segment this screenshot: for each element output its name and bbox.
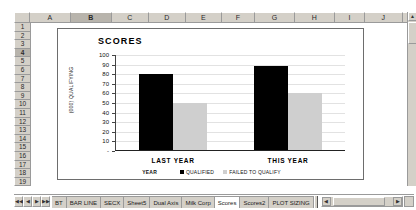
sheet-tab-bar: ◀◀ ◀ ▶ ▶▶ BT BAR LINE SECX Sheet5 Dual A… (14, 194, 414, 208)
legend-swatch-failed (223, 170, 227, 174)
row-header-2[interactable]: 2 (14, 32, 31, 41)
x-label-this-year: THIS YEAR (268, 157, 309, 164)
column-header-e[interactable]: E (186, 12, 222, 23)
bar-group-last-year (139, 55, 207, 150)
y-tick-40: 40 (102, 110, 109, 116)
scroll-left-icon[interactable]: ◀ (322, 197, 331, 206)
row-header-10[interactable]: 10 (14, 100, 31, 109)
embedded-chart[interactable]: SCORES (000) QUALIFYING 100 90 80 70 60 … (57, 28, 364, 180)
tab-nav-last-icon[interactable]: ▶▶ (41, 196, 50, 207)
tab-nav-buttons: ◀◀ ◀ ▶ ▶▶ (14, 196, 50, 207)
y-tick-70: 70 (102, 81, 109, 87)
sheet-tab-scores2[interactable]: Scores2 (240, 196, 269, 208)
spreadsheet-window: A B C D E F G H I J K 1 2 3 4 5 6 7 8 9 … (0, 0, 416, 210)
column-header-h[interactable]: H (295, 12, 335, 23)
select-all-corner[interactable] (14, 12, 30, 23)
legend-item-failed[interactable]: FAILED TO QUALIFY (223, 169, 281, 175)
column-header-g[interactable]: G (255, 12, 295, 23)
row-header-4[interactable]: 4 (14, 49, 31, 58)
legend-label-failed: FAILED TO QUALIFY (229, 169, 281, 175)
sheet-tab-secx[interactable]: SECX (101, 196, 124, 208)
row-header-11[interactable]: 11 (14, 109, 31, 118)
row-header-17[interactable]: 17 (14, 161, 31, 170)
vertical-scroll-thumb[interactable] (408, 22, 416, 44)
row-header-column: 1 2 3 4 5 6 7 8 9 10 11 12 13 14 15 16 1… (14, 23, 31, 186)
sheet-tabs: BT BAR LINE SECX Sheet5 Dual Axis Milk C… (52, 196, 314, 208)
sheet-tab-bt[interactable]: BT (52, 196, 67, 208)
scroll-right-icon[interactable]: ▶ (393, 197, 402, 206)
tab-nav-prev-icon[interactable]: ◀ (23, 196, 32, 207)
sheet-tab-sheet5[interactable]: Sheet5 (124, 196, 150, 208)
bar-qualified-this-year[interactable] (254, 66, 288, 150)
row-header-13[interactable]: 13 (14, 126, 31, 135)
column-header-d[interactable]: D (149, 12, 186, 23)
bars-plot (115, 55, 345, 151)
sheet-tab-bar-line[interactable]: BAR LINE (67, 196, 101, 208)
y-tickmark-0 (112, 151, 115, 152)
column-header-j[interactable]: J (365, 12, 403, 23)
scroll-up-icon[interactable]: ▲ (408, 12, 416, 21)
y-tick-100: 100 (99, 52, 109, 58)
legend-label-qualified: QUALIFIED (186, 169, 214, 175)
row-header-3[interactable]: 3 (14, 40, 31, 49)
tab-nav-next-icon[interactable]: ▶ (32, 196, 41, 207)
column-header-a[interactable]: A (30, 12, 71, 23)
x-axis-labels: LAST YEAR THIS YEAR (115, 157, 345, 164)
resize-corner[interactable] (404, 196, 414, 207)
bar-qualified-last-year[interactable] (139, 74, 173, 150)
chart-legend: YEAR QUALIFIED FAILED TO QUALIFY (58, 169, 365, 175)
y-tick-10: 10 (102, 138, 109, 144)
bar-failed-last-year[interactable] (173, 103, 207, 151)
sheet-tab-milk-corp[interactable]: Milk Corp (182, 196, 214, 208)
column-header-row: A B C D E F G H I J K (14, 12, 416, 23)
row-header-8[interactable]: 8 (14, 83, 31, 92)
row-header-5[interactable]: 5 (14, 57, 31, 66)
y-tick-60: 60 (102, 90, 109, 96)
legend-swatch-qualified (180, 170, 184, 174)
y-tick-80: 80 (102, 71, 109, 77)
bar-failed-this-year[interactable] (288, 93, 322, 150)
sheet-tab-dual-axis[interactable]: Dual Axis (150, 196, 182, 208)
chart-plot-area: (000) QUALIFYING 100 90 80 70 60 50 40 3… (58, 55, 365, 155)
chart-title: SCORES (98, 36, 143, 46)
y-tick-90: 90 (102, 62, 109, 68)
y-tick-0: - (107, 148, 109, 154)
row-header-1[interactable]: 1 (14, 23, 31, 32)
y-axis-label: (000) QUALIFYING (68, 55, 74, 125)
row-header-18[interactable]: 18 (14, 169, 31, 178)
sheet-tab-plot-sizing[interactable]: PLOT SIZING (269, 196, 313, 208)
horizontal-scrollbar[interactable]: ◀ ▶ (321, 196, 403, 207)
tab-nav-first-icon[interactable]: ◀◀ (14, 196, 23, 207)
column-header-f[interactable]: F (222, 12, 255, 23)
row-header-14[interactable]: 14 (14, 135, 31, 144)
column-header-c[interactable]: C (112, 12, 149, 23)
x-axis-title: YEAR (142, 169, 157, 175)
legend-item-qualified[interactable]: QUALIFIED (180, 169, 214, 175)
row-header-16[interactable]: 16 (14, 152, 31, 161)
x-label-last-year: LAST YEAR (152, 157, 195, 164)
y-tick-20: 20 (102, 129, 109, 135)
bar-group-this-year (254, 55, 322, 150)
bar-groups (116, 55, 345, 150)
row-header-9[interactable]: 9 (14, 92, 31, 101)
column-header-i[interactable]: I (335, 12, 365, 23)
row-header-15[interactable]: 15 (14, 143, 31, 152)
y-tick-50: 50 (102, 100, 109, 106)
column-header-b[interactable]: B (71, 12, 112, 23)
sheet-tab-scores[interactable]: Scores (215, 196, 241, 208)
row-header-19[interactable]: 19 (14, 178, 31, 187)
y-axis-ticks: 100 90 80 70 60 50 40 30 20 10 - (88, 55, 112, 151)
row-header-12[interactable]: 12 (14, 118, 31, 127)
horizontal-scroll-thumb[interactable] (333, 197, 385, 206)
row-header-7[interactable]: 7 (14, 75, 31, 84)
vertical-scrollbar[interactable]: ▲ (407, 12, 416, 186)
y-tick-30: 30 (102, 119, 109, 125)
tab-split-handle[interactable] (315, 196, 318, 208)
row-header-6[interactable]: 6 (14, 66, 31, 75)
